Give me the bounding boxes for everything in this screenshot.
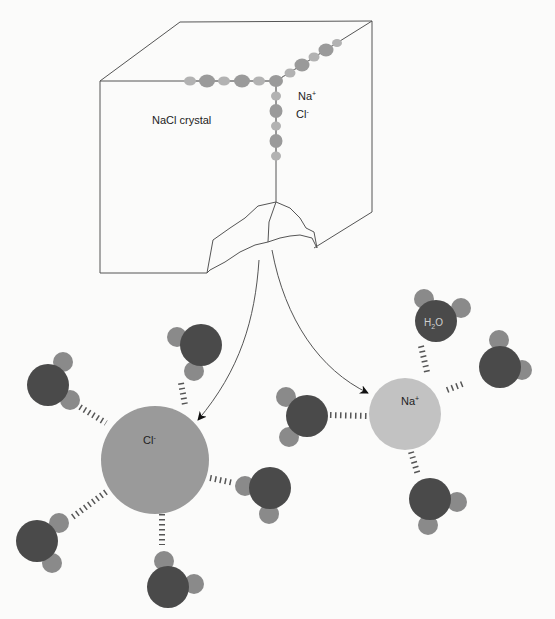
water-molecule	[167, 324, 222, 381]
water-molecule	[27, 352, 80, 410]
water-molecule	[409, 478, 467, 535]
sodium-ion: Na+	[369, 378, 441, 450]
water-molecule	[235, 467, 291, 524]
nacl-dissolution-diagram: NaCl crystal Na+ Cl- Cl- Na+	[0, 0, 555, 619]
water-molecule-labeled: H2O	[414, 289, 471, 342]
legend-cl-label: Cl-	[296, 108, 309, 120]
water-molecule	[16, 513, 69, 573]
arrow-to-sodium	[272, 250, 368, 393]
chloride-ion: Cl-	[101, 406, 209, 514]
crystal-label: NaCl crystal	[152, 114, 211, 126]
water-molecule	[147, 551, 204, 608]
water-molecule	[479, 330, 532, 388]
crystal-ion-chain	[184, 39, 342, 161]
legend-na-label: Na+	[298, 90, 316, 102]
water-molecule	[276, 387, 328, 447]
nacl-crystal-cube	[100, 21, 372, 273]
